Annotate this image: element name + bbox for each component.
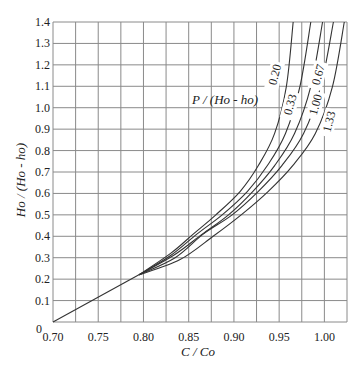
- curve-1-00: [139, 22, 333, 275]
- shared-line-segment: [53, 275, 139, 322]
- chart: 0.700.750.800.850.900.951.00 00.10.20.30…: [0, 0, 362, 377]
- curve-label: 1.33: [320, 110, 339, 134]
- y-tick-label: 0.4: [35, 229, 50, 243]
- y-tick-label: 1.2: [35, 58, 50, 72]
- x-tick-label: 0.85: [178, 330, 199, 344]
- y-tick-label: 1.4: [35, 15, 50, 29]
- x-tick-label: 0.95: [269, 330, 290, 344]
- x-tick-labels: 0.700.750.800.850.900.951.00: [43, 330, 335, 344]
- legend-title: P / (Ho - ho): [191, 92, 258, 107]
- y-tick-label: 0.2: [35, 272, 50, 286]
- y-tick-label: 0: [36, 322, 42, 336]
- curve-label: 0.20: [265, 63, 284, 87]
- y-tick-label: 0.1: [35, 294, 50, 308]
- y-tick-label: 0.5: [35, 208, 50, 222]
- curve-0-33: [139, 22, 311, 275]
- x-tick-label: 0.90: [223, 330, 244, 344]
- x-tick-label: 0.75: [88, 330, 109, 344]
- y-tick-label: 1.1: [35, 79, 50, 93]
- curve-label: 0.33: [281, 93, 300, 117]
- y-tick-label: 0.3: [35, 251, 50, 265]
- curve-0-20: [139, 22, 293, 275]
- x-tick-label: 1.00: [314, 330, 335, 344]
- y-tick-label: 0.6: [35, 186, 50, 200]
- y-axis-label: Ho / (Ho - ho): [13, 143, 28, 218]
- x-tick-label: 0.80: [133, 330, 154, 344]
- curve-label: 1.00: [306, 93, 325, 117]
- y-tick-label: 1.3: [35, 36, 50, 50]
- x-tick-label: 0.70: [43, 330, 64, 344]
- curve-1-33: [139, 22, 344, 275]
- y-tick-label: 0.7: [35, 165, 50, 179]
- y-tick-labels: 00.10.20.30.40.50.60.70.80.91.01.11.21.3…: [35, 15, 50, 336]
- x-axis-label: C / Co: [181, 344, 215, 359]
- y-tick-label: 0.8: [35, 144, 50, 158]
- grid: [53, 22, 347, 322]
- y-tick-label: 0.9: [35, 122, 50, 136]
- y-tick-label: 1.0: [35, 101, 50, 115]
